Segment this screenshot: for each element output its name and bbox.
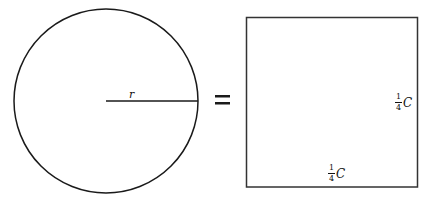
fraction-numerator: 1 xyxy=(328,164,335,174)
circumference-variable: C xyxy=(403,96,412,110)
fraction: 1 4 xyxy=(395,93,402,112)
fraction: 1 4 xyxy=(328,164,335,183)
circle-square-diagram xyxy=(0,0,433,202)
equals-sign-bottom-bar xyxy=(215,102,230,105)
square-right-side-label: 1 4 C xyxy=(395,93,412,112)
equals-sign-top-bar xyxy=(215,95,230,98)
square xyxy=(247,18,418,188)
square-bottom-side-label: 1 4 C xyxy=(328,164,345,183)
fraction-denominator: 4 xyxy=(329,174,334,183)
fraction-denominator: 4 xyxy=(396,103,401,112)
circumference-variable: C xyxy=(336,167,345,181)
radius-label: r xyxy=(129,89,134,100)
fraction-numerator: 1 xyxy=(395,93,402,103)
